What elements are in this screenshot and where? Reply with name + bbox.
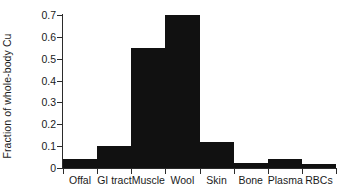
x-axis-tick-label: Bone	[234, 174, 268, 186]
x-axis-tick-mark	[63, 169, 64, 174]
y-axis-tick-mark	[57, 15, 63, 16]
x-axis-tick-labels: OffalGI tractMuscleWoolSkinBonePlasmaRBC…	[63, 174, 336, 188]
bar-skin	[200, 142, 234, 168]
y-axis-tick-label: 0.4	[30, 76, 56, 86]
x-axis-tick-mark	[302, 169, 303, 174]
bar-gi-tract	[97, 146, 131, 168]
bar-series	[63, 15, 336, 168]
bar-rbcs	[302, 164, 336, 168]
x-axis-tick-mark	[268, 169, 269, 174]
x-axis-tick-label: Wool	[165, 174, 199, 186]
y-axis-tick-mark	[57, 81, 63, 82]
x-axis-tick-mark	[234, 169, 235, 174]
y-axis-tick-label: 0	[30, 163, 56, 173]
x-axis-tick-label: Offal	[63, 174, 97, 186]
x-axis-tick-label: Skin	[200, 174, 234, 186]
x-axis-tick-mark	[200, 169, 201, 174]
bar-wool	[165, 15, 199, 168]
x-axis-tick-mark	[336, 169, 337, 174]
x-axis-tick-label: GI tract	[97, 174, 131, 186]
y-axis-tick-mark	[57, 102, 63, 103]
y-axis-title: Fraction of whole-body Cu	[0, 0, 14, 192]
x-axis-tick-mark	[97, 169, 98, 174]
y-axis-tick-label: 0.7	[30, 10, 56, 20]
y-axis-tick-mark	[57, 37, 63, 38]
y-axis-tick-mark	[57, 59, 63, 60]
y-axis-tick-labels: 00.10.20.30.40.50.60.7	[28, 0, 56, 192]
bar-bone	[234, 163, 268, 168]
y-axis-tick-label: 0.1	[30, 141, 56, 151]
x-axis-tick-mark	[165, 169, 166, 174]
y-axis-tick-label: 0.6	[30, 32, 56, 42]
y-axis-tick-mark	[57, 124, 63, 125]
x-axis-tick-mark	[131, 169, 132, 174]
y-axis-tick-label: 0.2	[30, 119, 56, 129]
bar-offal	[63, 159, 97, 168]
bar-muscle	[131, 48, 165, 168]
x-axis-tick-label: RBCs	[302, 174, 336, 186]
bar-plasma	[268, 159, 302, 168]
bar-chart: Fraction of whole-body Cu 00.10.20.30.40…	[0, 0, 342, 192]
y-axis-tick-label: 0.3	[30, 97, 56, 107]
y-axis-tick-label: 0.5	[30, 54, 56, 64]
x-axis-tick-label: Plasma	[268, 174, 302, 186]
x-axis-tick-label: Muscle	[131, 174, 165, 186]
y-axis-tick-mark	[57, 146, 63, 147]
